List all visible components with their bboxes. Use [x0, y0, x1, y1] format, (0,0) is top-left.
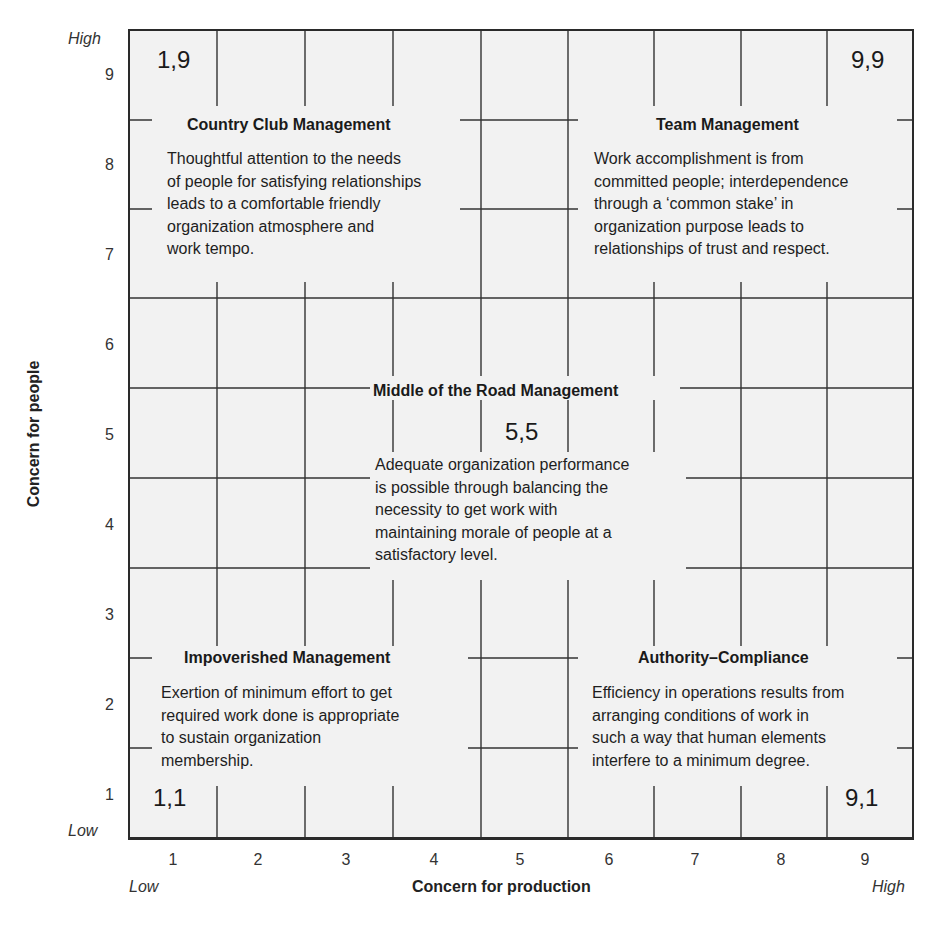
coordinate-label-9-1: 9,1	[845, 786, 878, 810]
country-club-title: Country Club Management	[187, 116, 391, 134]
coordinate-label-9-9: 9,9	[851, 48, 884, 72]
x-axis-low-label: Low	[129, 878, 158, 896]
x-tick-3: 3	[331, 851, 361, 869]
y-tick-3: 3	[88, 606, 114, 624]
x-tick-8: 8	[766, 851, 796, 869]
y-tick-2: 2	[88, 696, 114, 714]
y-axis-high-label: High	[68, 30, 101, 48]
y-axis-title: Concern for people	[25, 361, 43, 508]
team-description: Work accomplishment is from committed pe…	[594, 148, 848, 261]
y-axis-low-label: Low	[68, 822, 97, 840]
y-tick-9: 9	[88, 66, 114, 84]
y-tick-6: 6	[88, 336, 114, 354]
x-tick-6: 6	[594, 851, 624, 869]
team-title: Team Management	[656, 116, 799, 134]
y-tick-8: 8	[88, 156, 114, 174]
authority-compliance-title: Authority–Compliance	[638, 649, 809, 667]
y-tick-7: 7	[88, 246, 114, 264]
y-tick-1: 1	[88, 786, 114, 804]
middle-of-the-road-title: Middle of the Road Management	[373, 382, 618, 400]
middle-of-the-road-description: Adequate organization performance is pos…	[375, 454, 629, 567]
x-tick-4: 4	[419, 851, 449, 869]
impoverished-description: Exertion of minimum effort to get requir…	[161, 682, 399, 772]
x-tick-2: 2	[243, 851, 273, 869]
y-tick-4: 4	[88, 516, 114, 534]
impoverished-title: Impoverished Management	[184, 649, 390, 667]
x-axis-title: Concern for production	[412, 878, 591, 896]
x-tick-1: 1	[158, 851, 188, 869]
coordinate-label-1-9: 1,9	[157, 48, 190, 72]
authority-compliance-description: Efficiency in operations results from ar…	[592, 682, 844, 772]
x-tick-7: 7	[680, 851, 710, 869]
x-tick-9: 9	[850, 851, 880, 869]
x-tick-5: 5	[505, 851, 535, 869]
x-axis-high-label: High	[872, 878, 905, 896]
y-tick-5: 5	[88, 426, 114, 444]
coordinate-label-1-1: 1,1	[153, 786, 186, 810]
coordinate-label-5-5: 5,5	[505, 420, 538, 444]
country-club-description: Thoughtful attention to the needs of peo…	[167, 148, 421, 261]
managerial-grid-diagram: 1,9 9,9 5,5 1,1 9,1 Country Club Managem…	[0, 0, 944, 927]
